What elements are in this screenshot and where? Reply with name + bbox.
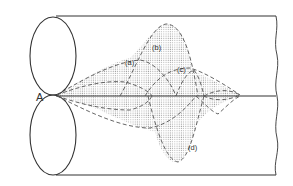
stippled-envelope bbox=[57, 24, 240, 162]
point-label-a: A bbox=[36, 91, 44, 103]
bottom-roll-end bbox=[30, 95, 76, 175]
roll-nip-diagram: A (a) (b) (c) (d) bbox=[0, 0, 293, 186]
curve-label-a: (a) bbox=[125, 58, 135, 67]
top-roll-end bbox=[30, 17, 76, 95]
curve-label-c: (c) bbox=[177, 65, 186, 74]
curve-label-d: (d) bbox=[188, 143, 198, 152]
curve-label-b: (b) bbox=[152, 43, 162, 52]
